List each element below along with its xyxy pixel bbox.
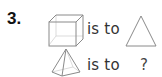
- pyramid-icon: [49, 47, 83, 77]
- answer-placeholder: ?: [140, 56, 148, 74]
- relation-text-1: is to: [87, 20, 120, 38]
- relation-text-2: is to: [87, 56, 120, 74]
- cube-icon: [47, 13, 85, 48]
- triangle-icon: [124, 14, 158, 48]
- question-number: 3.: [7, 9, 21, 29]
